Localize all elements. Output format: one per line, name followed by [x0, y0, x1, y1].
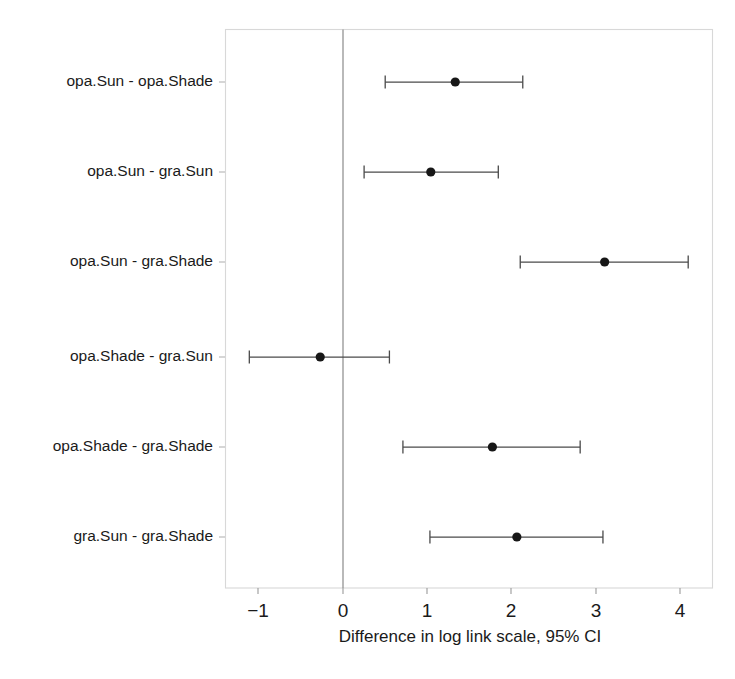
estimate-point: [512, 532, 521, 541]
y-axis-label-row-2: opa.Sun - gra.Shade: [70, 252, 213, 269]
forest-plot-figure: −1 0 1 2 3 4 opa.Sun - opa.Shade opa.Sun…: [0, 0, 735, 679]
x-axis-title: Difference in log link scale, 95% CI: [339, 627, 601, 646]
x-tick-label: 3: [591, 600, 602, 621]
y-axis-label-row-1: opa.Sun - gra.Sun: [87, 162, 213, 179]
estimate-point: [316, 352, 325, 361]
estimate-point: [451, 77, 460, 86]
x-tick-label: 0: [338, 600, 349, 621]
y-axis-label-row-3: opa.Shade - gra.Sun: [70, 347, 213, 364]
x-tick-label: 1: [422, 600, 433, 621]
estimate-point: [488, 442, 497, 451]
figure-background: [0, 0, 735, 679]
y-axis-label-row-4: opa.Shade - gra.Shade: [53, 437, 213, 454]
x-tick-label: 4: [675, 600, 686, 621]
forest-plot-canvas: −1 0 1 2 3 4 opa.Sun - opa.Shade opa.Sun…: [0, 0, 735, 679]
y-axis-label-row-0: opa.Sun - opa.Shade: [66, 72, 213, 89]
x-tick-label: −1: [247, 600, 269, 621]
estimate-point: [600, 257, 609, 266]
estimate-point: [426, 167, 435, 176]
x-tick-label: 2: [506, 600, 517, 621]
y-axis-label-row-5: gra.Sun - gra.Shade: [73, 527, 213, 544]
